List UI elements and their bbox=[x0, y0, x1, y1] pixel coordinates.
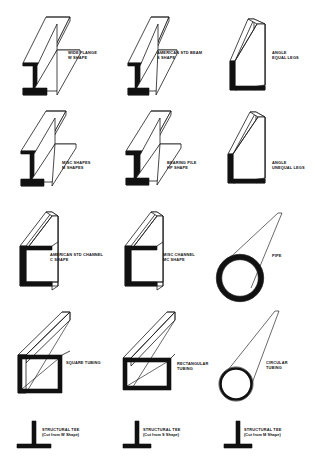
shape-label-line1: STRUCTURAL TEE bbox=[143, 427, 180, 432]
shape-label-rectangular-tubing: RECTANGULAR TUBING bbox=[177, 361, 209, 372]
shape-label-misc-channel: MISC CHANNEL MC SHAPE bbox=[163, 252, 195, 263]
shape-cell-structural-tee-w: STRUCTURAL TEE (Cut from W Shape) bbox=[0, 414, 105, 467]
shape-cell-wide-flange: WIDE FLANGE W SHAPE bbox=[0, 0, 105, 108]
shape-cell-pipe: PIPE bbox=[210, 208, 315, 313]
circular-tubing-drawing bbox=[210, 308, 315, 413]
shape-label-structural-tee-m: STRUCTURAL TEE (Cut from M Shape) bbox=[244, 427, 281, 438]
shape-label-angle-equal-legs: ANGLE EQUAL LEGS bbox=[272, 50, 299, 61]
shape-label-american-std-channel: AMERICAN STD CHANNEL C SHAPE bbox=[50, 252, 103, 263]
shape-label-structural-tee-w: STRUCTURAL TEE (Cut from W Shape) bbox=[42, 427, 79, 438]
shape-label-line1: MISC CHANNEL bbox=[163, 252, 195, 257]
shape-cell-rectangular-tubing: RECTANGULAR TUBING bbox=[105, 308, 210, 413]
shape-label-misc-shapes: MISC SHAPES M SHAPES bbox=[62, 160, 91, 171]
shape-label-pipe: PIPE bbox=[272, 253, 282, 258]
shape-label-line1: SQUARE TUBING bbox=[66, 360, 101, 365]
shape-label-angle-unequal-legs: ANGLE UNEQUAL LEGS bbox=[272, 160, 305, 171]
shape-cell-circular-tubing: CIRCULAR TUBING bbox=[210, 308, 315, 413]
shape-label-line1: BEARING PILE bbox=[167, 160, 197, 165]
shape-label-line2: (Cut from M Shape) bbox=[244, 432, 281, 437]
shape-label-structural-tee-s: STRUCTURAL TEE (Cut from S Shape) bbox=[143, 427, 180, 438]
shape-label-line1: STRUCTURAL TEE bbox=[244, 427, 281, 432]
shape-label-line2: S SHAPE bbox=[157, 55, 202, 60]
shape-label-line2: HP SHAPE bbox=[167, 165, 197, 170]
shape-label-line2: M SHAPES bbox=[62, 165, 91, 170]
structural-tee-w-drawing bbox=[0, 414, 105, 467]
shape-label-american-std-beam: AMERICAN STD BEAM S SHAPE bbox=[157, 50, 202, 61]
shape-cell-misc-channel: MISC CHANNEL MC SHAPE bbox=[105, 208, 210, 313]
shape-label-line2: C SHAPE bbox=[50, 257, 103, 262]
shape-cell-angle-unequal-legs: ANGLE UNEQUAL LEGS bbox=[210, 106, 315, 214]
shape-label-line1: MISC SHAPES bbox=[62, 160, 91, 165]
steel-shapes-chart: WIDE FLANGE W SHAPE AMERICAN STD BEAM S … bbox=[0, 0, 315, 467]
shape-label-line1: WIDE FLANGE bbox=[68, 50, 97, 55]
shape-label-circular-tubing: CIRCULAR TUBING bbox=[266, 360, 288, 371]
shape-label-wide-flange: WIDE FLANGE W SHAPE bbox=[68, 50, 97, 61]
shape-label-line2: TUBING bbox=[266, 365, 288, 370]
shape-cell-angle-equal-legs: ANGLE EQUAL LEGS bbox=[210, 0, 315, 108]
shape-label-line2: EQUAL LEGS bbox=[272, 55, 299, 60]
shape-label-line1: ANGLE bbox=[272, 50, 286, 55]
pipe-drawing bbox=[210, 208, 315, 313]
shape-cell-structural-tee-s: STRUCTURAL TEE (Cut from S Shape) bbox=[105, 414, 210, 467]
shape-label-line1: AMERICAN STD BEAM bbox=[157, 50, 202, 55]
shape-label-line2: UNEQUAL LEGS bbox=[272, 165, 305, 170]
shape-label-line2: (Cut from S Shape) bbox=[143, 432, 180, 437]
shape-label-square-tubing: SQUARE TUBING bbox=[66, 360, 101, 365]
shape-label-line1: RECTANGULAR bbox=[177, 361, 209, 366]
shape-cell-structural-tee-m: STRUCTURAL TEE (Cut from M Shape) bbox=[210, 414, 315, 467]
shape-cell-square-tubing: SQUARE TUBING bbox=[0, 308, 105, 413]
shape-label-line2: (Cut from W Shape) bbox=[42, 432, 79, 437]
shape-label-line2: TUBING bbox=[177, 366, 209, 371]
shape-label-bearing-pile: BEARING PILE HP SHAPE bbox=[167, 160, 197, 171]
angle-equal-legs-drawing bbox=[210, 0, 315, 108]
structural-tee-m-drawing bbox=[210, 414, 315, 467]
shape-cell-bearing-pile: BEARING PILE HP SHAPE bbox=[105, 106, 210, 214]
shape-label-line2: W SHAPE bbox=[68, 55, 97, 60]
shape-label-line1: CIRCULAR bbox=[266, 360, 288, 365]
shape-cell-misc-shapes: MISC SHAPES M SHAPES bbox=[0, 106, 105, 214]
shape-label-line1: AMERICAN STD CHANNEL bbox=[50, 252, 103, 257]
shape-label-line1: STRUCTURAL TEE bbox=[42, 427, 79, 432]
shape-label-line1: ANGLE bbox=[272, 160, 286, 165]
shape-label-line1: PIPE bbox=[272, 253, 282, 258]
shape-cell-american-std-beam: AMERICAN STD BEAM S SHAPE bbox=[105, 0, 210, 108]
shape-cell-american-std-channel: AMERICAN STD CHANNEL C SHAPE bbox=[0, 208, 105, 313]
structural-tee-s-drawing bbox=[105, 414, 210, 467]
shape-label-line2: MC SHAPE bbox=[163, 257, 195, 262]
